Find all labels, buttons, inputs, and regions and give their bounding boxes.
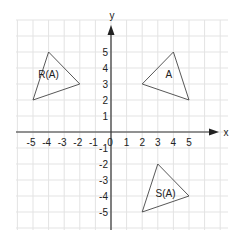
triangle-label: R(A) [38, 69, 59, 80]
y-tick-label: -3 [99, 175, 108, 186]
x-axis-arrow-icon [209, 129, 219, 136]
y-tick-label: 5 [102, 47, 108, 58]
x-tick-label: -5 [27, 137, 36, 148]
y-tick-label: -2 [99, 159, 108, 170]
y-tick-label: 1 [102, 111, 108, 122]
x-tick-label: 3 [155, 137, 161, 148]
x-axis-label: x [224, 127, 229, 138]
x-tick-label: -1 [89, 137, 98, 148]
y-tick-label: -1 [99, 143, 108, 154]
x-tick-label: -3 [58, 137, 67, 148]
y-tick-label: 2 [102, 95, 108, 106]
y-axis-label: y [110, 10, 115, 21]
triangle-label: S(A) [156, 188, 176, 199]
x-tick-label: -2 [73, 137, 82, 148]
coordinate-grid-svg: xy-5-4-3-2-101234554321-1-2-3-4-5AR(A)S(… [0, 0, 238, 234]
x-tick-label: 5 [186, 137, 192, 148]
y-tick-label: -5 [99, 207, 108, 218]
triangle-label: A [165, 69, 172, 80]
y-axis-arrow-icon [108, 25, 115, 35]
x-tick-label: -4 [42, 137, 51, 148]
x-tick-label: 0 [107, 137, 113, 148]
y-tick-label: -4 [99, 191, 108, 202]
x-tick-label: 1 [124, 137, 130, 148]
coordinate-plane: xy-5-4-3-2-101234554321-1-2-3-4-5AR(A)S(… [0, 0, 238, 234]
y-tick-label: 4 [102, 63, 108, 74]
x-tick-label: 2 [139, 137, 145, 148]
y-tick-label: 3 [102, 79, 108, 90]
x-tick-label: 4 [171, 137, 177, 148]
